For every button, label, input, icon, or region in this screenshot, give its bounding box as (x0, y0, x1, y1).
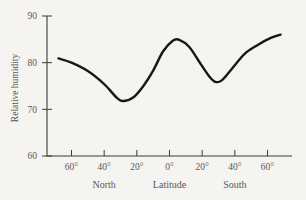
x-tick-label: 60° (261, 162, 275, 172)
x-tick-labels: 60°40°20°0°20°40°60° (65, 162, 275, 172)
x-tick-marks (72, 150, 268, 156)
y-axis-title-group: Relative humidity (10, 54, 20, 123)
data-series-group (58, 35, 280, 101)
x-region-label: South (223, 179, 246, 190)
x-tick-label: 20° (130, 162, 144, 172)
x-tick-label: 20° (196, 162, 210, 172)
y-axis-title: Relative humidity (10, 54, 20, 123)
y-tick-label: 90 (28, 11, 38, 21)
y-tick-labels: 60708090 (28, 11, 38, 161)
humidity-curve (58, 35, 280, 101)
y-tick-label: 80 (28, 58, 38, 68)
x-tick-label: 40° (98, 162, 112, 172)
chart-plot-area: 60708090 60°40°20°0°20°40°60° NorthLatit… (0, 0, 306, 200)
x-region-label: North (92, 179, 115, 190)
axis-lines (47, 16, 292, 156)
x-tick-label: 40° (228, 162, 242, 172)
y-tick-label: 60 (28, 151, 38, 161)
axes-group (47, 16, 292, 156)
x-tick-label: 0° (165, 162, 174, 172)
x-region-label: Latitude (153, 179, 187, 190)
y-tick-label: 70 (28, 105, 38, 115)
x-tick-label: 60° (65, 162, 79, 172)
humidity-latitude-chart: 60708090 60°40°20°0°20°40°60° NorthLatit… (0, 0, 306, 200)
x-region-labels: NorthLatitudeSouth (92, 179, 246, 190)
